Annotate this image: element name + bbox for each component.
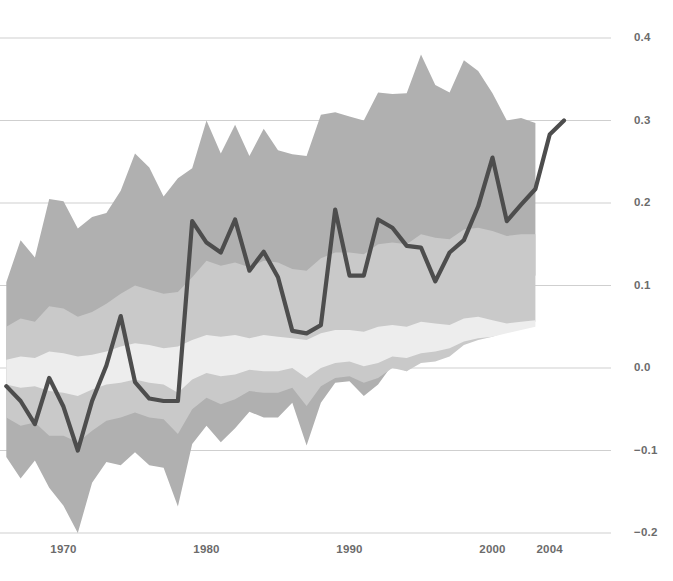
y-tick-label: 0.3 [634, 114, 651, 126]
x-tick-label: 1970 [50, 543, 76, 555]
y-tick-label: −0.2 [634, 526, 658, 538]
x-tick-label: 2000 [479, 543, 505, 555]
chart-container: 0.40.30.20.10.0−0.1−0.2 1970198019902000… [0, 0, 673, 581]
y-tick-label: 0.4 [634, 31, 651, 43]
y-tick-label: 0.1 [634, 279, 651, 291]
x-tick-label: 2004 [536, 543, 562, 555]
plot-area [0, 0, 673, 581]
uncertainty-bands-group [6, 55, 535, 534]
x-tick-label: 1980 [193, 543, 219, 555]
y-tick-label: −0.1 [634, 444, 658, 456]
x-tick-label: 1990 [336, 543, 362, 555]
y-tick-label: 0.0 [634, 361, 651, 373]
y-tick-label: 0.2 [634, 196, 651, 208]
